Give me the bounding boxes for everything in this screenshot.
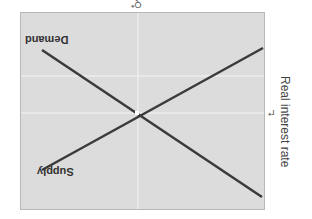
equilibrium-point [135, 111, 139, 115]
r-star-tick-label: r* [268, 108, 275, 118]
demand-line [42, 50, 262, 197]
chart-svg [0, 0, 312, 219]
supply-line [42, 48, 263, 170]
supply-label: Supply [37, 166, 74, 178]
demand-label: Demand [25, 34, 68, 46]
q-star-tick-label: Q* [131, 0, 142, 10]
y-axis-label: Real interest rate [278, 76, 292, 167]
